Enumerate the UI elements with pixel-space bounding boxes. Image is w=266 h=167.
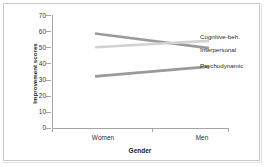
chart-figure: Improvement scores 70 60 50 40 30 20 10 … xyxy=(0,0,266,167)
legend-label-cognitive-beh: Cognitive-beh. xyxy=(200,33,240,40)
chart-lines xyxy=(0,0,266,167)
legend-label-psychodynamic: Psychodynamic xyxy=(200,62,243,69)
legend-label-interpersonal: Interpersonal xyxy=(200,46,236,53)
series-line-psychodynamic xyxy=(95,67,209,77)
